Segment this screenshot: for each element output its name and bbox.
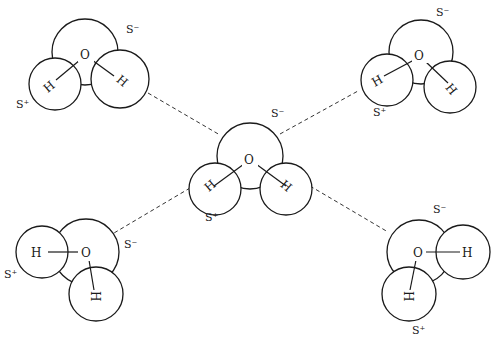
partial-negative-label: S⁻ bbox=[433, 203, 447, 216]
oxygen-label: O bbox=[413, 246, 423, 260]
water-molecule-bottom-right: O H H S⁻ S⁺ bbox=[382, 203, 490, 337]
hydrogen-atom bbox=[361, 54, 413, 106]
partial-negative-label: S⁻ bbox=[124, 238, 138, 251]
oxygen-label: O bbox=[81, 246, 91, 260]
hbond-top-right bbox=[280, 91, 358, 134]
hydrogen-label: H bbox=[88, 291, 102, 301]
partial-positive-label: S⁺ bbox=[16, 98, 30, 111]
hydrogen-label: H bbox=[401, 291, 415, 301]
oxygen-label: O bbox=[80, 48, 90, 62]
water-molecule-bottom-left: O H H S⁻ S⁺ bbox=[4, 219, 138, 321]
oxygen-label: O bbox=[244, 153, 254, 167]
partial-positive-label: S⁺ bbox=[412, 324, 426, 337]
water-molecule-top-left: O H H S⁻ S⁺ bbox=[16, 19, 149, 111]
partial-positive-label: S⁺ bbox=[205, 211, 219, 224]
water-hydrogen-bond-diagram: O H H S⁻ S⁺ O H H S⁻ S⁺ O H H S⁻ S⁺ bbox=[0, 0, 493, 342]
hydrogen-label: H bbox=[462, 246, 472, 260]
partial-negative-label: S⁻ bbox=[126, 23, 140, 36]
hbond-top-left bbox=[148, 93, 220, 135]
hbond-bottom-left bbox=[114, 188, 190, 233]
hbond-bottom-right bbox=[310, 186, 388, 232]
water-molecule-top-right: O H H S⁻ S⁺ bbox=[361, 6, 476, 119]
hydrogen-label: H bbox=[31, 246, 41, 260]
partial-negative-label: S⁻ bbox=[436, 6, 450, 19]
water-molecule-center: O H H S⁻ S⁺ bbox=[189, 107, 312, 224]
partial-positive-label: S⁺ bbox=[373, 106, 387, 119]
partial-positive-label: S⁺ bbox=[4, 268, 18, 281]
partial-negative-label: S⁻ bbox=[271, 107, 285, 120]
oxygen-label: O bbox=[414, 49, 424, 63]
